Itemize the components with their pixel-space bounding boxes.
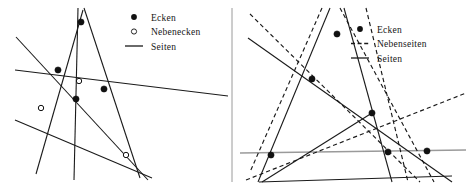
right-seiten-legend-label: Seiten bbox=[377, 54, 402, 64]
right-panel-group bbox=[240, 8, 466, 182]
nebenseite-4 bbox=[246, 93, 466, 180]
right-ecken-legend-label: Ecken bbox=[377, 25, 402, 35]
figure-container: EckenNebeneckenSeitenEckenNebenseitenSei… bbox=[0, 0, 467, 188]
seite-d bbox=[259, 176, 452, 182]
left-nebenecken-legend-label: Nebenecken bbox=[151, 27, 200, 37]
ecke-left bbox=[55, 67, 61, 73]
seite-a bbox=[248, 38, 452, 182]
ecke-bottom-mid bbox=[385, 149, 391, 155]
right-legend: EckenNebenseitenSeiten bbox=[351, 25, 427, 64]
seite-f bbox=[240, 150, 466, 153]
ecke-top bbox=[78, 19, 84, 25]
ecke-center bbox=[73, 96, 79, 102]
ecke-right bbox=[101, 86, 107, 92]
left-seiten-legend-label: Seiten bbox=[151, 42, 176, 52]
right-nebenseiten-legend-label: Nebenseiten bbox=[377, 39, 427, 49]
nebenecke-lower-right bbox=[123, 152, 128, 157]
ecke-top bbox=[334, 31, 340, 37]
filled-dot-icon bbox=[357, 26, 363, 32]
filled-dot-icon bbox=[131, 14, 137, 20]
nebenecke-lower-left bbox=[38, 105, 43, 110]
seite-2 bbox=[15, 70, 228, 96]
open-dot-icon bbox=[131, 29, 136, 34]
seite-1 bbox=[16, 37, 148, 180]
left-legend: EckenNebeneckenSeiten bbox=[125, 13, 200, 52]
diagram-canvas: EckenNebeneckenSeitenEckenNebenseitenSei… bbox=[0, 0, 467, 188]
ecke-upper-left bbox=[309, 76, 315, 82]
seite-3 bbox=[15, 120, 152, 178]
nebenseite-2 bbox=[250, 8, 322, 172]
seite-e bbox=[262, 113, 372, 182]
left-ecken-legend-label: Ecken bbox=[151, 13, 176, 23]
ecke-bottom-right bbox=[424, 148, 430, 154]
ecke-middle-right bbox=[369, 110, 375, 116]
ecke-bottom-left bbox=[268, 152, 274, 158]
nebenecke-mid bbox=[76, 78, 81, 83]
